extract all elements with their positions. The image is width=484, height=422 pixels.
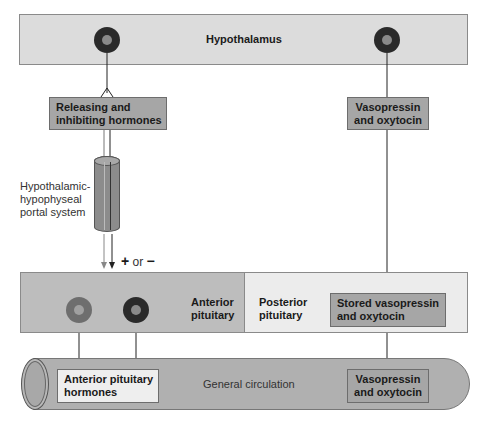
releasing-hormones-box: Releasing and inhibiting hormones xyxy=(49,97,167,130)
vasopressin-oxytocin-box: Vasopressin and oxytocin xyxy=(347,97,429,130)
anterior-cell-gray-icon xyxy=(66,297,92,323)
releasing-line2: inhibiting hormones xyxy=(56,114,166,127)
stimulate-inhibit-label: + or − xyxy=(121,254,155,269)
general-circulation-label: General circulation xyxy=(203,378,295,391)
or-text: or xyxy=(133,255,144,269)
plus-sign: + xyxy=(121,253,129,269)
circulation-vasopressin-box: Vasopressin and oxytocin xyxy=(347,369,429,403)
anterior-pituitary-label: Anterior pituitary xyxy=(191,296,234,322)
minus-sign: − xyxy=(147,253,155,269)
anterior-pituitary-hormones-box: Anterior pituitary hormones xyxy=(57,369,159,403)
portal-system-label: Hypothalamic- hypophyseal portal system xyxy=(20,180,90,219)
tube-opening-icon xyxy=(21,358,49,410)
portal-cylinder-icon xyxy=(94,156,120,232)
posterior-pituitary-label: Posterior pituitary xyxy=(259,296,307,322)
vasopressin-line1: Vasopressin xyxy=(348,101,428,114)
releasing-line1: Releasing and xyxy=(56,101,166,114)
anterior-cell-dark-icon xyxy=(123,297,149,323)
vasopressin-line2: and oxytocin xyxy=(348,114,428,127)
stored-vasopressin-box: Stored vasopressin and oxytocin xyxy=(330,293,446,327)
